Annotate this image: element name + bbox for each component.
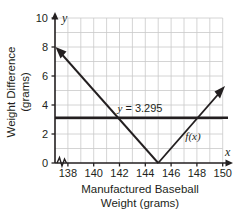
y-tick-label: 10 (36, 12, 48, 24)
function-curve-label: f(x) (185, 130, 201, 143)
absolute-value-function-graph: y x 138 140 142 144 146 148 150 0 2 4 6 … (0, 0, 245, 213)
y-axis-title-line2: (grams) (19, 72, 31, 112)
y-tick-label: 2 (42, 128, 48, 140)
y-tick-label: 0 (42, 157, 48, 169)
x-axis-title-line1: Manufactured Baseball (81, 183, 199, 195)
x-tick-label: 146 (162, 167, 180, 179)
x-tick-label: 140 (85, 167, 103, 179)
chart-figure: y x 138 140 142 144 146 148 150 0 2 4 6 … (0, 0, 245, 213)
x-tick-label: 150 (214, 167, 232, 179)
horizontal-line-label-value: = 3.295 (122, 102, 162, 114)
x-tick-label: 144 (136, 167, 154, 179)
y-axis-variable-label: y (61, 11, 68, 25)
x-tick-labels: 138 140 142 144 146 148 150 (59, 167, 232, 179)
x-axis-title-line2: Weight (grams) (101, 197, 180, 209)
horizontal-line-label: y = 3.295 (117, 102, 163, 114)
x-tick-label: 142 (110, 167, 128, 179)
x-tick-label: 148 (188, 167, 206, 179)
y-tick-label: 4 (42, 99, 48, 111)
y-tick-label: 6 (42, 70, 48, 82)
x-axis-variable-label: x (224, 145, 231, 159)
x-tick-label: 138 (59, 167, 77, 179)
y-axis-title-line1: Weight Difference (5, 47, 17, 138)
y-tick-label: 8 (42, 41, 48, 53)
